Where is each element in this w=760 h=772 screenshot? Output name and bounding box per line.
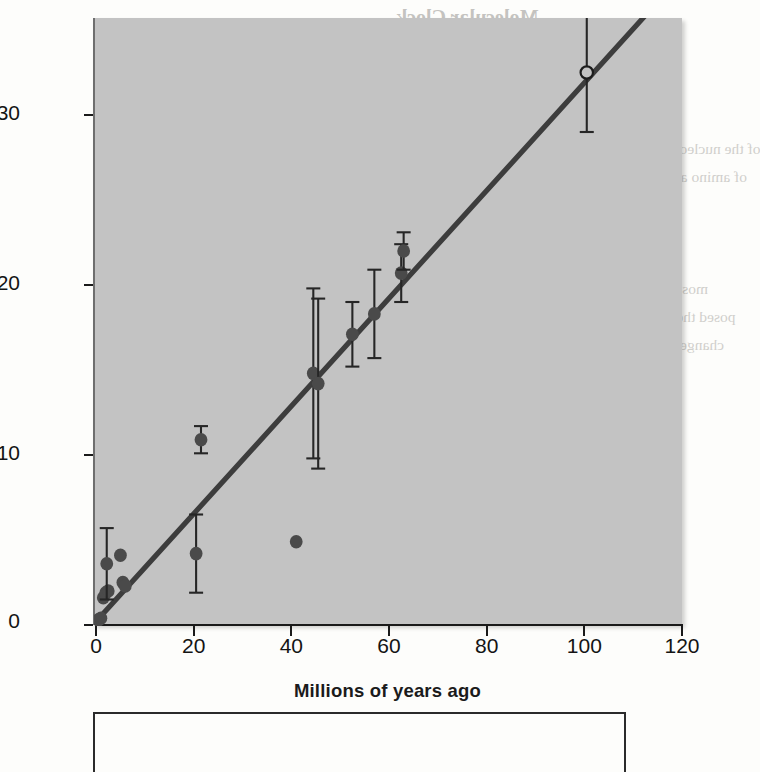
data-point-filled: [100, 557, 113, 571]
data-point-open: [581, 66, 593, 78]
x-axis-title: Millions of years ago: [93, 680, 682, 702]
data-point-filled: [368, 307, 381, 321]
data-point-filled: [312, 377, 325, 391]
data-point-filled: [190, 547, 203, 561]
data-point-filled: [94, 611, 107, 625]
data-point-filled: [397, 244, 410, 258]
data-point-filled: [395, 266, 408, 280]
data-point-filled: [290, 535, 303, 549]
clipped-data-group: [92, 0, 672, 627]
data-point-filled: [119, 579, 132, 593]
caption-box-outline: [93, 712, 626, 772]
data-point-filled: [195, 433, 208, 447]
data-point-filled: [114, 549, 127, 563]
data-point-filled: [346, 328, 359, 342]
data-point-filled: [102, 584, 115, 598]
